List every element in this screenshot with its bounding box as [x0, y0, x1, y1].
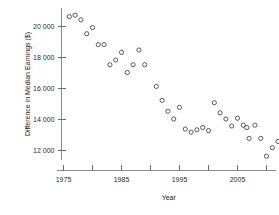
data-point: [166, 109, 170, 113]
data-point: [79, 18, 83, 22]
y-axis-tick-label: 14 000: [33, 116, 55, 123]
scatter-chart: 12 00014 00016 00018 00020 0001975198519…: [0, 0, 279, 215]
data-point: [114, 58, 118, 62]
data-point: [235, 116, 239, 120]
data-point: [247, 136, 251, 140]
data-point: [67, 15, 71, 19]
data-point: [172, 117, 176, 121]
data-point: [206, 129, 210, 133]
data-point: [253, 123, 257, 127]
data-point: [108, 63, 112, 67]
data-point: [177, 105, 181, 109]
data-point: [90, 25, 94, 29]
data-series: [67, 13, 279, 158]
y-axis-tick-label: 16 000: [33, 85, 55, 92]
data-point: [218, 111, 222, 115]
data-point: [131, 63, 135, 67]
x-axis-tick-label: 1975: [56, 176, 72, 183]
data-point: [73, 13, 77, 17]
data-point: [259, 136, 263, 140]
data-point: [119, 50, 123, 54]
data-point: [183, 127, 187, 131]
data-point: [212, 101, 216, 105]
y-axis-tick-label: 20 000: [33, 23, 55, 30]
y-axis-tick-label: 18 000: [33, 54, 55, 61]
x-axis-tick-label: 1985: [114, 176, 130, 183]
x-axis-tick-label: 2005: [230, 176, 246, 183]
data-point: [154, 84, 158, 88]
data-point: [160, 98, 164, 102]
plot-area: 12 00014 00016 00018 00020 0001975198519…: [0, 0, 279, 215]
data-point: [245, 125, 249, 129]
data-point: [270, 146, 274, 150]
data-point: [85, 32, 89, 36]
data-point: [224, 117, 228, 121]
data-point: [143, 63, 147, 67]
x-axis-tick-label: 1995: [172, 176, 188, 183]
data-point: [195, 128, 199, 132]
data-point: [102, 43, 106, 47]
data-point: [189, 130, 193, 134]
y-axis-title: Difference in Median Earnings ($): [24, 32, 32, 136]
data-point: [264, 154, 268, 158]
data-point: [125, 70, 129, 74]
data-point: [276, 139, 279, 143]
y-axis-tick-label: 12 000: [33, 147, 55, 154]
data-point: [137, 48, 141, 52]
x-axis-title: Year: [162, 194, 177, 201]
data-point: [201, 125, 205, 129]
data-point: [96, 43, 100, 47]
data-point: [230, 124, 234, 128]
